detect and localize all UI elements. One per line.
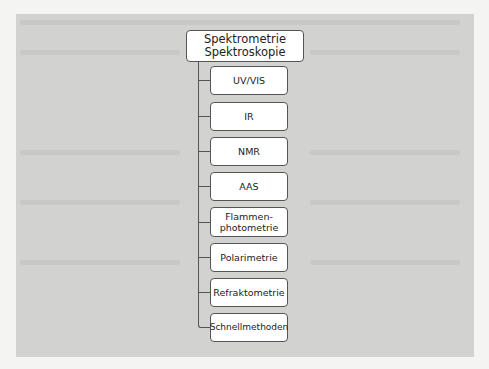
branch-line bbox=[198, 222, 210, 223]
node-label-line1: Flammen- bbox=[225, 211, 273, 222]
branch-line bbox=[198, 116, 210, 117]
node-schnellmethoden: Schnellmethoden bbox=[210, 313, 288, 342]
background-text-line bbox=[20, 50, 180, 55]
node-ir: IR bbox=[210, 102, 288, 131]
background-text-line bbox=[20, 260, 180, 265]
node-aas: AAS bbox=[210, 172, 288, 201]
node-label: NMR bbox=[238, 146, 260, 157]
node-nmr: NMR bbox=[210, 137, 288, 166]
node-label: AAS bbox=[239, 181, 258, 192]
branch-line bbox=[198, 151, 210, 152]
background-text-line bbox=[20, 150, 180, 155]
node-label: Schnellmethoden bbox=[210, 322, 289, 333]
node-refraktometrie: Refraktometrie bbox=[210, 278, 288, 307]
tree-trunk-line bbox=[198, 62, 199, 325]
background-text-line bbox=[310, 150, 460, 155]
background-text-line bbox=[20, 200, 180, 205]
node-label: UV/VIS bbox=[233, 75, 265, 86]
background-text-line bbox=[20, 20, 460, 25]
node-polarimetrie: Polarimetrie bbox=[210, 243, 288, 272]
node-label: Refraktometrie bbox=[213, 287, 284, 298]
branch-line bbox=[198, 257, 210, 258]
node-label: Polarimetrie bbox=[220, 252, 277, 263]
branch-line bbox=[198, 292, 210, 293]
root-label-line2: Spektroskopie bbox=[204, 46, 285, 59]
node-label: IR bbox=[244, 111, 253, 122]
branch-line bbox=[198, 80, 210, 81]
branch-elbow-line bbox=[198, 318, 210, 328]
node-uv-vis: UV/VIS bbox=[210, 66, 288, 95]
node-flammenphotometrie: Flammen- photometrie bbox=[210, 207, 288, 237]
node-label-line2: photometrie bbox=[220, 222, 279, 233]
background-text-line bbox=[310, 260, 460, 265]
root-node: Spektrometrie Spektroskopie bbox=[186, 30, 304, 62]
background-text-line bbox=[310, 50, 460, 55]
background-text-line bbox=[310, 200, 460, 205]
branch-line bbox=[198, 186, 210, 187]
